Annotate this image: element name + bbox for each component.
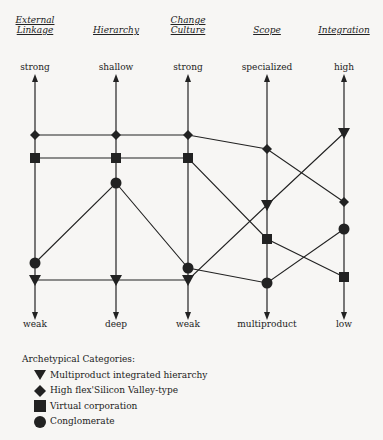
arrow-up-icon: [113, 74, 119, 82]
circle-icon: [111, 178, 122, 189]
circle-icon: [34, 416, 46, 428]
square-icon: [183, 153, 193, 163]
arrow-down-icon: [32, 312, 38, 320]
square-icon: [339, 272, 349, 282]
legend-label: High flex'Silicon Valley-type: [50, 383, 178, 399]
circle-icon: [30, 258, 41, 269]
arrow-down-icon: [113, 312, 119, 320]
square-icon: [262, 234, 272, 244]
legend: Archetypical Categories: Multiproduct in…: [22, 352, 207, 430]
arrow-down-icon: [341, 312, 347, 320]
square-icon: [111, 153, 121, 163]
arrow-up-icon: [185, 74, 191, 82]
diamond-icon: [262, 144, 272, 154]
legend-item-conglomerate: Conglomerate: [34, 414, 207, 430]
legend-item-multiproduct: Multiproduct integrated hierarchy: [34, 368, 207, 384]
arrow-down-icon: [264, 312, 270, 320]
arrow-up-icon: [264, 74, 270, 82]
diamond-icon: [183, 130, 193, 140]
legend-title: Archetypical Categories:: [22, 352, 207, 368]
triangle-down-icon: [34, 369, 46, 381]
legend-item-high-flex: High flex'Silicon Valley-type: [34, 383, 207, 399]
circle-icon: [262, 278, 273, 289]
legend-label: Virtual corporation: [50, 399, 137, 415]
arrow-up-icon: [32, 74, 38, 82]
arrow-up-icon: [341, 74, 347, 82]
circle-icon: [183, 263, 194, 274]
legend-label: Conglomerate: [50, 414, 115, 430]
circle-icon: [339, 224, 350, 235]
diamond-icon: [34, 385, 46, 397]
legend-item-virtual: Virtual corporation: [34, 399, 207, 415]
diamond-icon: [339, 197, 349, 207]
square-icon: [30, 153, 40, 163]
legend-label: Multiproduct integrated hierarchy: [50, 368, 207, 384]
diamond-icon: [30, 130, 40, 140]
diamond-icon: [111, 130, 121, 140]
profile-line: [35, 135, 344, 202]
square-icon: [34, 400, 46, 412]
arrow-down-icon: [185, 312, 191, 320]
